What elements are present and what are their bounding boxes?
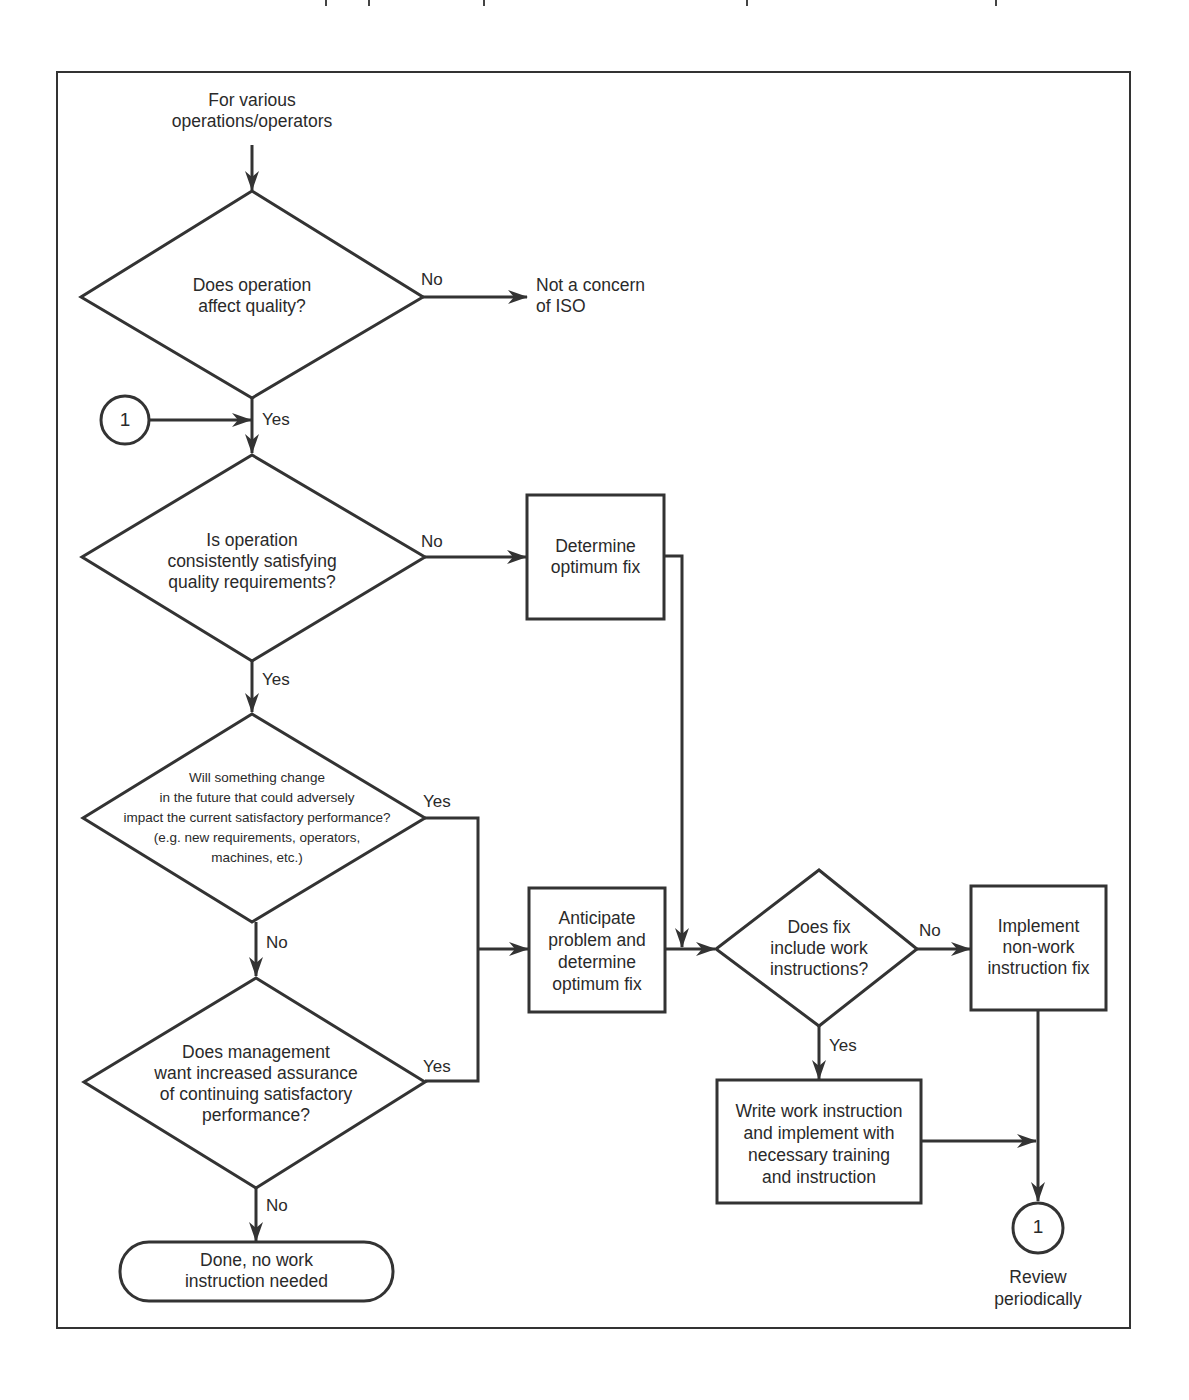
process-fix-label: Determine optimum fix [527, 536, 664, 578]
d1-no-label: No [421, 270, 443, 290]
decision-d4-label: Does management want increased assurance… [136, 1042, 376, 1126]
d4-no-label: No [266, 1196, 288, 1216]
decision-d5-label: Does fix include work instructions? [734, 917, 904, 980]
d5-yes-label: Yes [829, 1036, 857, 1056]
terminator-done-label: Done, no work instruction needed [120, 1250, 393, 1292]
connector-1-out-label: 1 [1020, 1216, 1056, 1237]
d3-no-label: No [266, 933, 288, 953]
d2-yes-label: Yes [262, 670, 290, 690]
decision-d3-label: Will something change in the future that… [102, 768, 412, 868]
d4-yes-label: Yes [423, 1057, 451, 1077]
d1-yes-label: Yes [262, 410, 290, 430]
edge-d3-d4-yes-bus [425, 818, 478, 1081]
process-anticipate-label: Anticipate problem and determine optimum… [529, 907, 665, 995]
flowchart-canvas [0, 0, 1189, 1400]
process-nonwork-label: Implement non-work instruction fix [971, 916, 1106, 979]
not-iso-label: Not a concern of ISO [536, 275, 716, 317]
connector-1-out-caption: Review periodically [978, 1266, 1098, 1310]
decision-d2-label: Is operation consistently satisfying qua… [132, 530, 372, 593]
decision-d1-label: Does operation affect quality? [132, 275, 372, 317]
d5-no-label: No [919, 921, 941, 941]
connector-1-in-label: 1 [107, 409, 143, 430]
start-label: For various operations/operators [152, 90, 352, 132]
d2-no-label: No [421, 532, 443, 552]
edge-fix-d5 [664, 556, 682, 947]
d3-yes-label: Yes [423, 792, 451, 812]
process-write-label: Write work instruction and implement wit… [717, 1100, 921, 1188]
